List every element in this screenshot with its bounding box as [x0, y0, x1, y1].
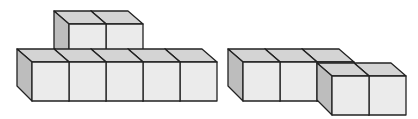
cube [317, 63, 369, 115]
cube-front-face [32, 62, 69, 101]
cube [228, 49, 280, 101]
cube-front-face [280, 62, 317, 101]
cube-diagram-canvas [0, 0, 418, 119]
cube-front-face [243, 62, 280, 101]
cube-front-face [69, 62, 106, 101]
cube-front-face [106, 62, 143, 101]
right-figure [228, 49, 406, 115]
left-figure [17, 11, 217, 101]
cube-front-face [180, 62, 217, 101]
cube-front-face [143, 62, 180, 101]
cube [17, 49, 69, 101]
cube-front-face [369, 76, 406, 115]
cube-diagram [0, 0, 418, 119]
cube-front-face [332, 76, 369, 115]
